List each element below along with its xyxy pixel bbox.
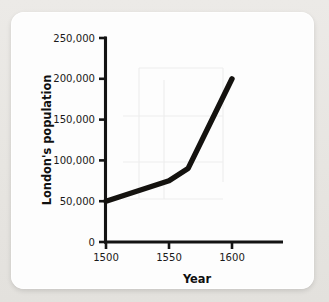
x-tick-label-1600: 1600 [219,252,245,263]
line-chart: 250,000 200,000 150,000 100,000 50,000 0… [11,12,314,289]
x-axis-title: Year [182,272,212,286]
x-tick-label-1500: 1500 [93,252,119,263]
x-tick-label-1550: 1550 [156,252,182,263]
y-tick-label-0: 0 [89,237,95,248]
y-tick-label-50000: 50,000 [60,196,95,207]
y-tick-label-200000: 200,000 [53,73,95,84]
population-line-series [106,79,232,201]
y-tick-label-250000: 250,000 [53,33,95,44]
y-tick-label-100000: 100,000 [53,155,95,166]
y-axis-title: London's population [40,75,54,206]
chart-card: 250,000 200,000 150,000 100,000 50,000 0… [11,12,314,289]
y-tick-label-150000: 150,000 [53,114,95,125]
